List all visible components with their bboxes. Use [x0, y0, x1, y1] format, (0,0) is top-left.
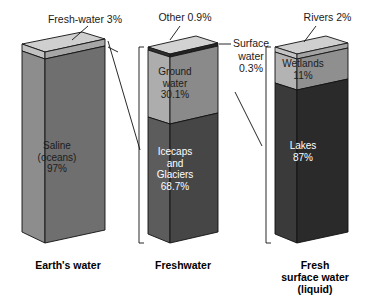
- segment-label-icecaps-line2: and: [146, 158, 204, 170]
- bar3-lakes-front: [275, 83, 297, 243]
- callout-surface-water-line1: Surface: [226, 37, 276, 50]
- axis-label-fsw-line2: surface water: [256, 271, 374, 283]
- bracket-fresh-surface-water: [266, 47, 271, 243]
- axis-label-freshwater: Freshwater: [128, 259, 238, 271]
- bracket-freshwater: [139, 47, 144, 243]
- axis-label-earths-water: Earth's water: [8, 259, 128, 271]
- segment-label-icecaps-line4: 68.7%: [146, 181, 204, 193]
- segment-label-ground-water: Ground water 30.1%: [146, 66, 204, 101]
- callout-surface-water: Surface water 0.3%: [226, 37, 276, 75]
- bar-earths-water: [22, 32, 105, 243]
- axis-label-fresh-surface-water: Fresh surface water (liquid): [256, 259, 374, 295]
- segment-label-ground-water-line1: Ground: [146, 66, 204, 78]
- segment-label-lakes-line2: 87%: [272, 152, 334, 164]
- callout-other: Other 0.9%: [140, 11, 230, 24]
- segment-label-wetlands: Wetlands 11%: [272, 58, 334, 81]
- segment-label-saline-line1: Saline: [22, 140, 92, 152]
- water-distribution-figure: Fresh-water 3% Other 0.9% Rivers 2% Surf…: [0, 0, 378, 308]
- segment-label-icecaps-line1: Icecaps: [146, 146, 204, 158]
- callout-rivers: Rivers 2%: [285, 11, 370, 24]
- connector-bar1-to-bar2: [108, 41, 140, 150]
- callout-surface-water-line2: water: [226, 50, 276, 63]
- segment-label-lakes: Lakes 87%: [272, 140, 334, 163]
- axis-label-fsw-line3: (liquid): [256, 283, 374, 295]
- segment-label-icecaps-glaciers: Icecaps and Glaciers 68.7%: [146, 146, 204, 192]
- segment-label-icecaps-line3: Glaciers: [146, 169, 204, 181]
- leader-other: [170, 26, 180, 40]
- segment-label-saline: Saline (oceans) 97%: [22, 140, 92, 175]
- axis-label-fsw-line1: Fresh: [256, 259, 374, 271]
- segment-label-saline-line2: (oceans): [22, 152, 92, 164]
- segment-label-saline-line3: 97%: [22, 163, 92, 175]
- segment-label-lakes-line1: Lakes: [272, 140, 334, 152]
- callout-surface-water-line3: 0.3%: [226, 62, 276, 75]
- segment-label-wetlands-line2: 11%: [272, 70, 334, 82]
- segment-label-ground-water-line3: 30.1%: [146, 89, 204, 101]
- callout-fresh-water: Fresh-water 3%: [30, 13, 140, 26]
- segment-label-ground-water-line2: water: [146, 78, 204, 90]
- segment-label-wetlands-line1: Wetlands: [272, 58, 334, 70]
